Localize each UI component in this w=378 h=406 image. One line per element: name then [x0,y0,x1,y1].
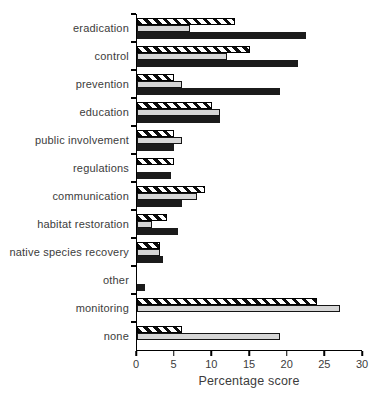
chart-rows: eradicationcontrolpreventioneducationpub… [0,0,378,350]
bar-slot [137,333,362,340]
x-axis-tick [211,351,213,356]
chart-row: monitoring [0,294,378,322]
bar-slot [137,186,362,193]
bar-group [136,14,362,42]
bar-slot [137,340,362,347]
x-axis-label: Percentage score [136,372,362,388]
bar-slot [137,284,362,291]
chart-row: prevention [0,70,378,98]
gray-bar [137,333,280,340]
bar-group [136,294,362,322]
x-axis-tick-label: 10 [205,358,217,370]
gray-bar [137,25,190,32]
bar-slot [137,277,362,284]
category-label: habitat restoration [0,210,136,238]
striped-bar [137,158,174,165]
black-bar [137,200,182,207]
striped-bar [137,18,235,25]
bar-group [136,210,362,238]
x-axis-label-row: Percentage score [0,372,378,388]
bar-group [136,322,362,350]
x-axis-tick-label: 30 [356,358,368,370]
striped-bar [137,242,160,249]
bar-slot [137,60,362,67]
striped-bar [137,102,212,109]
bar-slot [137,144,362,151]
x-axis-tick [135,351,137,356]
bar-slot [137,326,362,333]
bar-slot [137,18,362,25]
bar-slot [137,193,362,200]
category-label: communication [0,182,136,210]
bar-chart-figure: eradicationcontrolpreventioneducationpub… [0,0,378,406]
category-label: education [0,98,136,126]
black-bar [137,172,171,179]
bar-slot [137,102,362,109]
bar-slot [137,305,362,312]
bar-slot [137,200,362,207]
bar-group [136,266,362,294]
chart-row: habitat restoration [0,210,378,238]
chart-row: communication [0,182,378,210]
bar-slot [137,228,362,235]
black-bar [137,88,280,95]
striped-bar [137,46,250,53]
chart-row: other [0,266,378,294]
bar-slot [137,137,362,144]
chart-row: education [0,98,378,126]
chart-row: regulations [0,154,378,182]
bar-group [136,238,362,266]
chart-row: none [0,322,378,350]
gray-bar [137,81,182,88]
black-bar [137,32,306,39]
chart-row: public involvement [0,126,378,154]
bar-slot [137,74,362,81]
bar-group [136,42,362,70]
striped-bar [137,214,167,221]
bar-slot [137,158,362,165]
x-axis-spacer [0,350,136,372]
x-axis-tick-label: 15 [243,358,255,370]
x-axis-row: 051015202530 [0,350,378,372]
category-label: eradication [0,14,136,42]
bar-slot [137,256,362,263]
striped-bar [137,186,205,193]
category-label: other [0,266,136,294]
bar-slot [137,221,362,228]
bar-slot [137,298,362,305]
bar-slot [137,109,362,116]
chart-row: control [0,42,378,70]
x-axis-tick-label: 0 [133,358,139,370]
bar-slot [137,270,362,277]
bar-slot [137,165,362,172]
category-label: none [0,322,136,350]
gray-bar [137,109,220,116]
bar-slot [137,32,362,39]
category-label: regulations [0,154,136,182]
bar-slot [137,53,362,60]
gray-bar [137,249,160,256]
x-axis-tick [173,351,175,356]
category-label: public involvement [0,126,136,154]
striped-bar [137,326,182,333]
bar-slot [137,130,362,137]
bar-group [136,154,362,182]
x-axis-tick [324,351,326,356]
category-label: prevention [0,70,136,98]
x-axis-tick [248,351,250,356]
bar-slot [137,249,362,256]
striped-bar [137,298,317,305]
gray-bar [137,221,152,228]
bar-group [136,70,362,98]
category-label: monitoring [0,294,136,322]
bar-group [136,126,362,154]
black-bar [137,60,298,67]
bar-group [136,98,362,126]
gray-bar [137,137,182,144]
x-axis-tick [361,351,363,356]
black-bar [137,256,163,263]
black-bar [137,116,220,123]
gray-bar [137,53,227,60]
category-label: control [0,42,136,70]
x-axis: 051015202530 [136,350,362,372]
